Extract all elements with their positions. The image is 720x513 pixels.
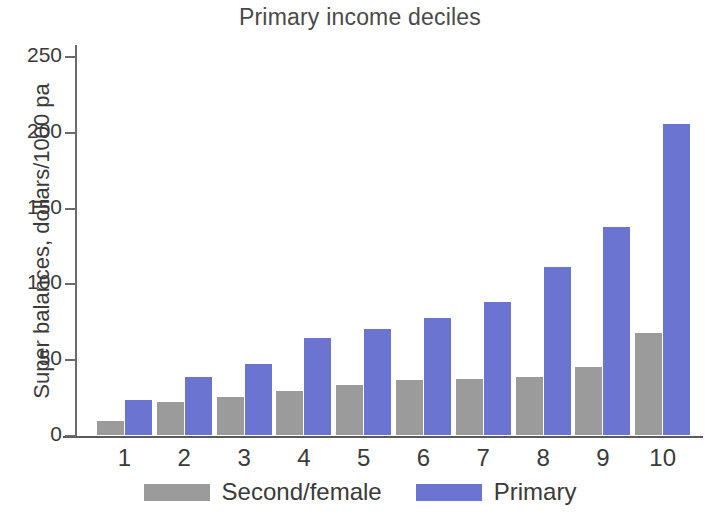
chart-legend: Second/femalePrimary [0,478,720,506]
bar-chart: Primary income deciles Super balances, d… [0,0,720,513]
bar-primary [185,377,212,435]
legend-item: Primary [416,478,577,506]
bar-group [97,39,157,436]
bar-primary [304,338,331,435]
y-axis-tick [65,359,76,361]
chart-title: Primary income deciles [0,4,720,31]
plot-area: 050100150200250 12345678910 [75,40,703,437]
bar-primary [484,302,511,435]
y-axis-tick-label: 150 [7,195,62,219]
bar-primary [544,267,571,435]
y-axis-tick-label: 250 [7,43,62,67]
x-axis-line [63,436,703,438]
bar-second-female [516,377,543,435]
y-axis-tick [65,435,76,437]
legend-label: Primary [494,478,577,506]
y-axis-label: Super balances, dollars/1000 pa [29,31,55,451]
y-axis-line [75,45,77,437]
legend-swatch-second [144,484,210,501]
bar-second-female [217,397,244,435]
bar-second-female [456,379,483,435]
y-axis-tick [65,208,76,210]
bar-group [516,39,576,436]
bar-second-female [635,333,662,435]
bar-second-female [157,402,184,435]
bar-group [575,39,635,436]
bar-primary [663,124,690,435]
bar-group [217,39,277,436]
bar-primary [125,400,152,435]
y-axis-tick-label: 50 [7,346,62,370]
bar-group [336,39,396,436]
y-axis-tick-label: 200 [7,119,62,143]
bar-second-female [396,380,423,435]
legend-swatch-primary [416,484,482,501]
y-axis-tick [65,56,76,58]
bar-second-female [97,421,124,435]
bar-primary [424,318,451,435]
legend-label: Second/female [222,478,382,506]
y-axis-tick-label: 0 [7,422,62,446]
bar-primary [245,364,272,435]
bar-primary [603,227,630,435]
legend-item: Second/female [144,478,382,506]
y-axis-tick-label: 100 [7,270,62,294]
bar-group [635,39,695,436]
bar-group [157,39,217,436]
bar-second-female [276,391,303,435]
bar-group [276,39,336,436]
bar-group [456,39,516,436]
bar-primary [364,329,391,435]
y-axis-tick [65,283,76,285]
bar-second-female [336,385,363,435]
bar-group [396,39,456,436]
y-axis-tick [65,132,76,134]
x-axis-tick-label: 10 [627,444,698,472]
bar-second-female [575,367,602,435]
